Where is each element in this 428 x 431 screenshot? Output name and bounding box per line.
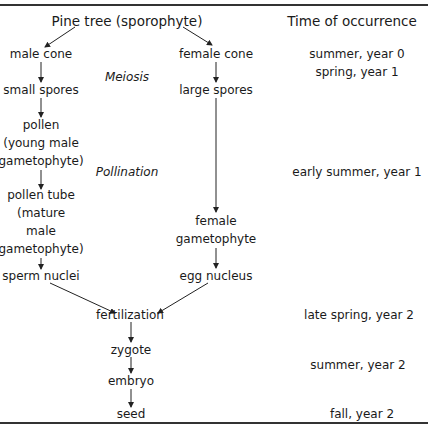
time-summer-year-2: summer, year 2 — [310, 356, 405, 374]
pollen-tube-line-3: male — [0, 222, 84, 240]
node-fertilization: fertilization — [96, 306, 164, 324]
root-node-pine-tree: Pine tree (sporophyte) — [52, 12, 203, 30]
node-female-gametophyte: female gametophyte — [176, 212, 257, 248]
pollen-tube-line-1: pollen tube — [0, 186, 84, 204]
arrow-egg-to-fertilization — [158, 283, 208, 313]
label-meiosis: Meiosis — [105, 68, 149, 86]
node-small-spores: small spores — [3, 81, 78, 99]
time-late-spring-year-2: late spring, year 2 — [304, 306, 414, 324]
time-spring-year-1: spring, year 1 — [315, 63, 398, 81]
pollen-line-3: gametophyte) — [0, 152, 84, 170]
label-pollination: Pollination — [96, 163, 159, 181]
node-seed: seed — [117, 405, 146, 423]
node-embryo: embryo — [108, 372, 154, 390]
node-female-cone: female cone — [179, 45, 253, 63]
node-egg-nucleus: egg nucleus — [180, 267, 253, 285]
arrow-tree-to-male-cone — [45, 27, 75, 47]
time-header: Time of occurrence — [287, 12, 416, 30]
female-gametophyte-line-2: gametophyte — [176, 230, 257, 248]
node-male-cone: male cone — [10, 45, 73, 63]
time-fall-year-2: fall, year 2 — [330, 405, 394, 423]
female-gametophyte-line-1: female — [176, 212, 257, 230]
node-large-spores: large spores — [179, 81, 253, 99]
time-summer-year-0: summer, year 0 — [309, 45, 404, 63]
node-sperm-nuclei: sperm nuclei — [2, 267, 79, 285]
pollen-line-1: pollen — [0, 116, 84, 134]
pollen-tube-line-4: gametophyte) — [0, 240, 84, 258]
node-pollen-tube: pollen tube (mature male gametophyte) — [0, 186, 84, 258]
node-pollen: pollen (young male gametophyte) — [0, 116, 84, 170]
pollen-tube-line-2: (mature — [0, 204, 84, 222]
pollen-line-2: (young male — [0, 134, 84, 152]
node-zygote: zygote — [111, 341, 151, 359]
time-early-summer-year-1: early summer, year 1 — [292, 163, 421, 181]
